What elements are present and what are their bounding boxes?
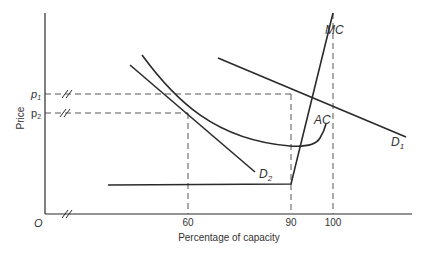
p2-label-sub: 2 (37, 113, 41, 120)
mc-curve (108, 13, 333, 185)
d1-curve (218, 58, 406, 137)
axis-break-marks (60, 90, 72, 218)
y-axis-title: Price (15, 106, 26, 129)
d1-label-sub: 1 (400, 142, 404, 151)
p1-label-main: p (30, 88, 37, 100)
x-tick-60: 60 (182, 217, 194, 228)
d1-label-main: D (391, 135, 400, 149)
p1-label-sub: 1 (37, 94, 41, 101)
d2-label-sub: 2 (267, 174, 273, 183)
origin-label: O (34, 217, 43, 229)
p1-label: p1 (30, 88, 41, 101)
x-tick-90: 90 (285, 217, 297, 228)
mc-label: MC (325, 23, 344, 37)
p2-label: p2 (31, 107, 41, 120)
ac-label: AC (313, 113, 331, 127)
d2-label-main: D (259, 167, 268, 181)
ac-curve (142, 55, 326, 146)
d2-curve (130, 65, 255, 172)
d2-label: D2 (259, 167, 273, 183)
d1-label: D1 (391, 135, 404, 151)
curves (108, 13, 406, 185)
x-tick-100: 100 (325, 217, 342, 228)
capacity-pricing-diagram: MC AC D1 D2 p1 p2 60 90 100 O Percentage… (0, 0, 422, 255)
x-axis-title: Percentage of capacity (178, 232, 280, 243)
